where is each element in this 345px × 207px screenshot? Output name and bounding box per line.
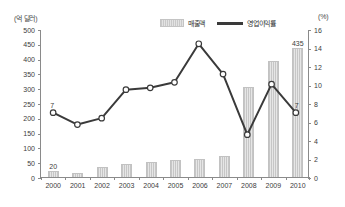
plot-area: 050100150200250300350400450500 024681012… [40,30,309,178]
x-tick [261,177,262,180]
x-tick-label-2004: 2004 [143,182,159,189]
y-tick-label-left: 100 [23,145,35,152]
x-tick [212,177,213,180]
point-value-label-2010: 7 [295,102,299,109]
x-tick [41,177,42,180]
chart-container: (억 달러) (%) 매출액 영업이익률 0501001502002503003… [0,0,345,207]
x-tick [65,177,66,180]
y-tick-label-left: 50 [27,160,35,167]
x-tick [90,177,91,180]
x-tick-label-2009: 2009 [266,182,282,189]
y-tick-right [308,86,311,87]
y-tick-right [308,104,311,105]
y-tick-label-left: 400 [23,56,35,63]
y-tick-label-right: 0 [314,175,318,182]
chart-legend: 매출액 영업이익률 [160,17,276,29]
x-tick-label-2006: 2006 [192,182,208,189]
y-tick-label-right: 14 [314,45,322,52]
x-tick [237,177,238,180]
legend-line-swatch-icon [217,22,243,25]
legend-label-sales: 매출액 [188,18,205,28]
line-path-operating-margin [53,44,296,135]
bar-value-label-2000: 20 [49,163,57,170]
x-tick-label-2003: 2003 [119,182,135,189]
y-tick-label-left: 200 [23,115,35,122]
x-tick-label-2001: 2001 [70,182,86,189]
x-tick-label-2008: 2008 [241,182,257,189]
y-tick-label-right: 10 [314,82,322,89]
y-tick-label-left: 300 [23,86,35,93]
y-tick-label-right: 8 [314,101,318,108]
y-tick-right [308,123,311,124]
data-point-2006[interactable] [196,41,202,47]
y-tick-label-right: 16 [314,27,322,34]
y-tick-label-right: 2 [314,156,318,163]
y-tick-right [308,49,311,50]
x-tick-label-2000: 2000 [45,182,61,189]
point-value-label-2000: 7 [50,102,54,109]
x-tick [114,177,115,180]
x-tick-label-2010: 2010 [290,182,306,189]
y-tick-label-left: 350 [23,71,35,78]
data-point-2004[interactable] [147,85,153,91]
data-point-2008[interactable] [245,132,251,138]
data-point-2009[interactable] [269,81,275,87]
legend-item-operating-margin: 영업이익률 [217,18,276,28]
y-tick-label-left: 0 [31,175,35,182]
x-tick-label-2007: 2007 [217,182,233,189]
x-tick-label-2005: 2005 [168,182,184,189]
line-series-operating-margin [41,30,308,177]
y-axis-unit-left: (억 달러) [14,13,37,23]
data-point-2005[interactable] [172,80,178,86]
y-tick-label-left: 450 [23,41,35,48]
x-tick [163,177,164,180]
legend-bar-swatch-icon [160,19,184,27]
y-tick-label-left: 500 [23,27,35,34]
y-tick-label-left: 150 [23,130,35,137]
data-point-2002[interactable] [99,115,105,121]
plot-inner: 050100150200250300350400450500 024681012… [41,30,308,177]
data-point-2000[interactable] [50,110,56,116]
y-tick-label-right: 12 [314,64,322,71]
y-tick-label-right: 4 [314,138,318,145]
data-point-2001[interactable] [75,122,81,128]
y-tick-label-right: 6 [314,119,318,126]
data-point-2007[interactable] [220,71,226,77]
y-tick-right [308,160,311,161]
y-axis-unit-right: (%) [318,13,328,20]
x-tick [139,177,140,180]
x-tick [188,177,189,180]
legend-item-sales: 매출액 [160,18,205,28]
x-tick [286,177,287,180]
data-point-2010[interactable] [293,110,299,116]
y-tick-label-left: 250 [23,101,35,108]
y-tick-right [308,141,311,142]
legend-label-operating-margin: 영업이익률 [247,18,276,28]
x-tick-label-2002: 2002 [94,182,110,189]
y-tick-right [308,30,311,31]
y-tick-right [308,67,311,68]
x-tick [309,177,310,180]
bar-value-label-2010: 435 [292,40,304,47]
data-point-2003[interactable] [123,87,129,93]
